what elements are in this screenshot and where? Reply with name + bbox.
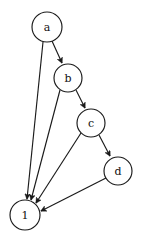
node-label-b: b xyxy=(64,72,71,85)
node-label-d: d xyxy=(114,165,121,178)
edge-b-to-c xyxy=(76,90,85,108)
graph-node-b[interactable]: b xyxy=(54,64,82,92)
nodes-layer: a b c d 1 xyxy=(10,12,132,230)
graph-diagram: a b c d 1 xyxy=(0,0,145,245)
graph-node-c[interactable]: c xyxy=(77,109,105,137)
graph-canvas: a b c d 1 xyxy=(0,0,145,245)
graph-node-1[interactable]: 1 xyxy=(10,200,40,230)
edge-d-to-1 xyxy=(41,178,106,211)
edge-a-to-b xyxy=(52,41,62,63)
edge-b-to-1 xyxy=(31,90,60,200)
node-label-1: 1 xyxy=(22,209,29,222)
edge-c-to-1 xyxy=(36,133,81,203)
node-label-c: c xyxy=(88,117,94,130)
edge-c-to-d xyxy=(99,135,110,156)
edge-a-to-1 xyxy=(27,42,43,199)
node-label-a: a xyxy=(44,21,51,34)
graph-node-d[interactable]: d xyxy=(104,157,132,185)
graph-node-a[interactable]: a xyxy=(32,12,62,42)
